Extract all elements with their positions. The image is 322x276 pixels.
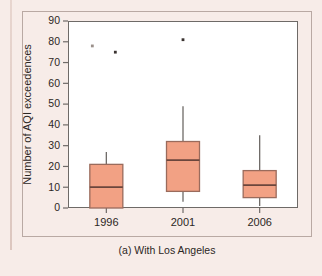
box-body — [90, 164, 123, 208]
y-tick-label: 0 — [54, 201, 60, 213]
outlier-point — [114, 51, 117, 54]
y-tick-label: 50 — [48, 97, 60, 109]
y-tick-label: 20 — [48, 160, 60, 172]
x-axis: 199620012006 — [94, 208, 272, 228]
x-tick-label: 1996 — [94, 216, 118, 228]
box-plot-2001 — [167, 38, 200, 201]
figure-caption: (a) With Los Angeles — [22, 244, 312, 256]
y-axis-title-text: Number of AQI exceedences — [21, 44, 33, 185]
box-body — [167, 142, 200, 192]
x-tick-label: 2001 — [171, 216, 195, 228]
y-tick-label: 40 — [48, 118, 60, 130]
y-tick-label: 60 — [48, 77, 60, 89]
y-axis: 0102030405060708090 — [48, 14, 68, 213]
x-tick-label: 2006 — [247, 216, 271, 228]
box-plots — [90, 38, 276, 208]
y-tick-label: 10 — [48, 181, 60, 193]
box-plot-2006 — [243, 135, 276, 206]
y-tick-label: 30 — [48, 139, 60, 151]
y-tick-label: 70 — [48, 56, 60, 68]
box-plot-1996 — [90, 45, 123, 208]
box-body — [243, 171, 276, 198]
boxplot-chart: 0102030405060708090 199620012006 Number … — [0, 0, 322, 276]
y-tick-label: 80 — [48, 35, 60, 47]
y-tick-label: 90 — [48, 14, 60, 26]
outlier-point — [91, 45, 94, 48]
y-axis-title: Number of AQI exceedences — [21, 44, 33, 185]
outlier-point — [182, 38, 185, 41]
